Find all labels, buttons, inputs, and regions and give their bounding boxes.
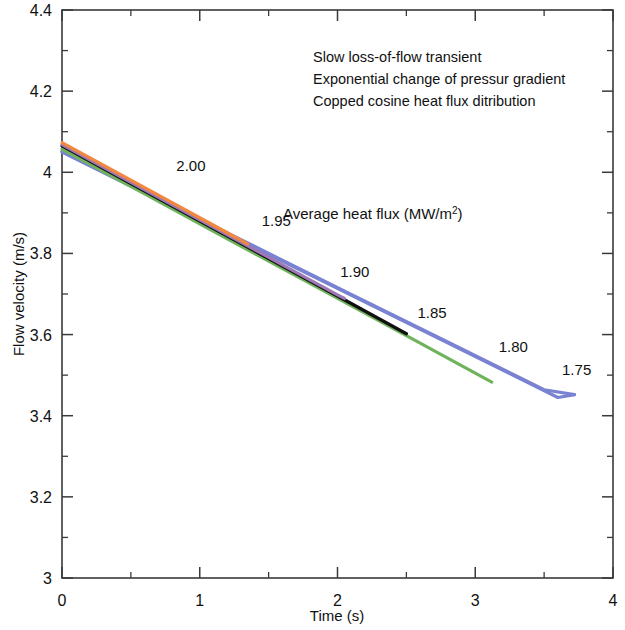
curve-label-2-00: 2.00: [176, 157, 205, 174]
x-tick-label: 1: [195, 592, 204, 609]
annotation-line-1: Slow loss-of-flow transient: [313, 49, 481, 65]
y-tick-label: 3: [43, 570, 52, 587]
chart-figure: 0123433.23.43.63.844.24.4 2.001.951.901.…: [0, 0, 625, 630]
y-tick-label: 3.6: [30, 327, 52, 344]
legend-title-tail: ): [458, 205, 463, 222]
y-tick-label: 3.8: [30, 245, 52, 262]
x-tick-label: 3: [471, 592, 480, 609]
curve-label-1-85: 1.85: [417, 304, 446, 321]
legend-title-main: Average heat flux (MW/m: [283, 205, 452, 222]
y-tick-label: 4: [43, 164, 52, 181]
y-tick-label: 3.2: [30, 489, 52, 506]
x-axis-title: Time (s): [310, 607, 364, 624]
curve-label-1-90: 1.90: [340, 263, 369, 280]
annotation-line-2: Exponential change of pressur gradient: [313, 71, 565, 87]
x-tick-label: 0: [58, 592, 67, 609]
flow-velocity-line-chart: 0123433.23.43.63.844.24.4 2.001.951.901.…: [0, 0, 625, 630]
curve-label-1-80: 1.80: [499, 338, 528, 355]
x-tick-label: 4: [609, 592, 618, 609]
legend-title: Average heat flux (MW/m2): [283, 205, 463, 222]
y-axis-title: Flow velocity (m/s): [10, 232, 27, 356]
y-tick-label: 3.4: [30, 408, 52, 425]
curve-label-1-75: 1.75: [562, 361, 591, 378]
y-tick-label: 4.2: [30, 83, 52, 100]
y-tick-label: 4.4: [30, 2, 52, 19]
annotation-line-3: Copped cosine heat flux ditribution: [313, 93, 535, 109]
